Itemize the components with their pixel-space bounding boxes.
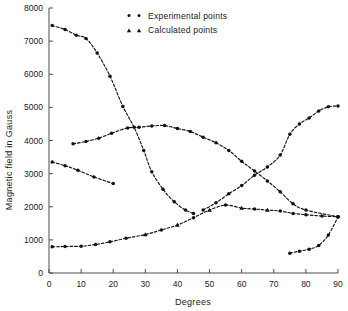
data-point-circle bbox=[201, 208, 205, 212]
data-point-circle bbox=[307, 116, 311, 120]
x-tick-label: 50 bbox=[205, 279, 215, 289]
series-line-branch-6-bottom-right bbox=[290, 217, 338, 253]
data-point-circle bbox=[161, 187, 165, 191]
x-tick-label: 0 bbox=[47, 279, 52, 289]
data-point-circle bbox=[214, 201, 218, 205]
data-point-circle bbox=[79, 244, 83, 248]
data-point-circle bbox=[160, 228, 164, 232]
data-point-circle bbox=[76, 169, 80, 173]
data-point-circle bbox=[124, 236, 128, 240]
data-point-circle bbox=[327, 105, 331, 109]
data-point-circle bbox=[240, 184, 244, 188]
series-line-branch-2-hump bbox=[73, 125, 338, 216]
data-markers bbox=[50, 24, 339, 255]
data-point-circle bbox=[63, 164, 67, 168]
x-tick-label: 30 bbox=[141, 279, 151, 289]
y-tick-label: 1000 bbox=[24, 235, 43, 245]
data-point-circle bbox=[266, 179, 270, 183]
data-point-circle bbox=[95, 51, 99, 55]
chart-figure: 010002000300040005000600070008000 010203… bbox=[0, 0, 348, 311]
data-point-circle bbox=[307, 247, 311, 251]
data-point-circle bbox=[227, 192, 231, 196]
data-point-circle bbox=[108, 74, 112, 78]
data-point-circle bbox=[304, 208, 308, 212]
series-line-branch-4-ascending-calculated bbox=[52, 205, 338, 247]
data-point-circle bbox=[278, 153, 282, 157]
series-line-branch-3-short-descending bbox=[52, 162, 113, 184]
data-point-circle bbox=[176, 127, 180, 131]
data-point-circle bbox=[253, 207, 257, 211]
data-point-circle bbox=[184, 208, 188, 212]
y-tick-label: 5000 bbox=[24, 102, 43, 112]
data-curves bbox=[52, 26, 338, 254]
x-tick-label: 10 bbox=[76, 279, 86, 289]
x-axis-title: Degrees bbox=[175, 297, 211, 307]
legend-marker-triangle-a bbox=[127, 29, 131, 33]
data-point-circle bbox=[150, 124, 154, 128]
data-point-circle bbox=[132, 126, 136, 130]
data-point-circle bbox=[97, 136, 101, 140]
data-point-circle bbox=[327, 233, 331, 237]
legend-entry-calculated: Calculated points bbox=[127, 25, 218, 35]
data-point-circle bbox=[71, 142, 75, 146]
data-point-circle bbox=[137, 126, 141, 130]
data-point-circle bbox=[224, 203, 228, 207]
data-point-circle bbox=[253, 174, 257, 178]
x-tick-label: 70 bbox=[269, 279, 279, 289]
data-point-circle bbox=[240, 160, 244, 164]
data-point-circle bbox=[75, 33, 79, 37]
data-point-circle bbox=[172, 200, 176, 204]
data-point-circle bbox=[336, 215, 340, 219]
data-point-circle bbox=[84, 140, 88, 144]
legend-label-experimental: Experimental points bbox=[148, 11, 227, 21]
data-point-circle bbox=[50, 24, 54, 28]
x-axis-ticks: 0102030405060708090 bbox=[47, 269, 343, 289]
data-point-circle bbox=[253, 169, 257, 173]
data-point-circle bbox=[94, 243, 98, 247]
data-point-circle bbox=[201, 135, 205, 139]
data-point-circle bbox=[317, 244, 321, 248]
chart-legend: Experimental points Calculated points bbox=[127, 11, 227, 35]
data-point-circle bbox=[291, 212, 295, 216]
series-line-branch-5-rising-right bbox=[203, 106, 338, 210]
data-point-circle bbox=[291, 202, 295, 206]
legend-entry-experimental: Experimental points bbox=[128, 11, 228, 21]
x-tick-label: 40 bbox=[173, 279, 183, 289]
data-point-circle bbox=[142, 149, 146, 153]
y-tick-label: 2000 bbox=[24, 202, 43, 212]
legend-marker-circle-b bbox=[138, 14, 141, 17]
x-tick-label: 90 bbox=[333, 279, 343, 289]
data-point-circle bbox=[192, 216, 196, 220]
data-point-circle bbox=[214, 141, 218, 145]
data-point-circle bbox=[63, 28, 67, 32]
data-point-circle bbox=[63, 245, 67, 249]
legend-label-calculated: Calculated points bbox=[148, 25, 217, 35]
data-point-circle bbox=[278, 209, 282, 213]
data-point-circle bbox=[298, 249, 302, 253]
data-point-circle bbox=[111, 182, 115, 186]
y-tick-label: 6000 bbox=[24, 69, 43, 79]
data-point-circle bbox=[189, 130, 193, 134]
data-point-circle bbox=[108, 240, 112, 244]
data-point-circle bbox=[92, 175, 96, 179]
legend-marker-triangle-b bbox=[137, 29, 141, 33]
data-point-circle bbox=[84, 37, 88, 41]
data-point-circle bbox=[110, 131, 114, 135]
data-point-circle bbox=[336, 104, 340, 108]
x-tick-label: 60 bbox=[237, 279, 247, 289]
x-tick-label: 80 bbox=[301, 279, 311, 289]
data-point-circle bbox=[298, 122, 302, 126]
data-point-circle bbox=[126, 126, 130, 130]
y-tick-label: 4000 bbox=[24, 136, 43, 146]
data-point-circle bbox=[150, 170, 154, 174]
series-line-branch-1-descending bbox=[52, 26, 193, 214]
data-point-circle bbox=[50, 160, 54, 164]
y-tick-label: 3000 bbox=[24, 169, 43, 179]
data-point-circle bbox=[317, 109, 321, 113]
data-point-circle bbox=[266, 165, 270, 169]
data-point-circle bbox=[192, 212, 196, 216]
data-point-circle bbox=[288, 251, 292, 255]
data-point-circle bbox=[288, 132, 292, 136]
y-tick-label: 0 bbox=[38, 268, 43, 278]
y-tick-label: 7000 bbox=[24, 36, 43, 46]
